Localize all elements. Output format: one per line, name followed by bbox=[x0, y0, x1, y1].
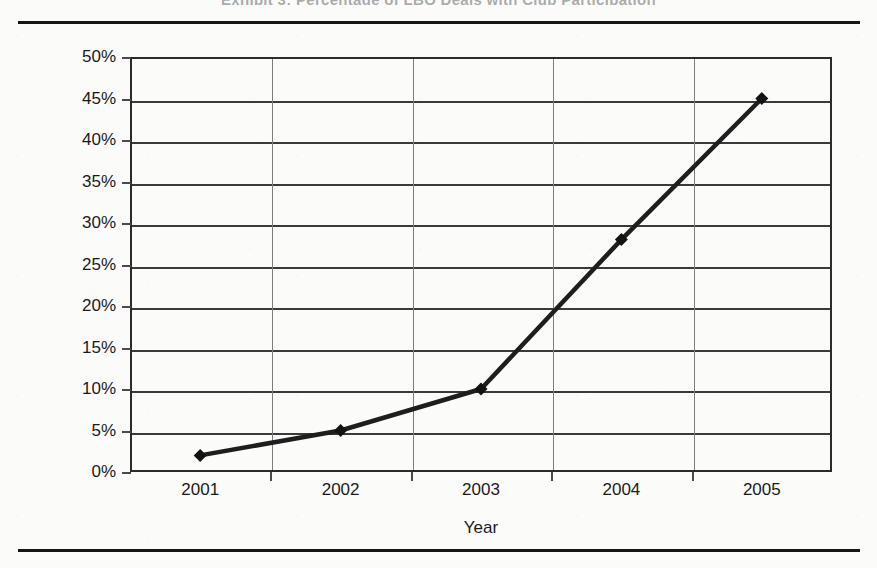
y-axis-tick-label: 10% bbox=[56, 379, 116, 399]
y-axis-tick-mark bbox=[122, 472, 131, 474]
y-axis-title: Percentage of LBO Deals bbox=[8, 0, 30, 101]
y-axis-tick-labels: 0%5%10%15%20%25%30%35%40%45%50% bbox=[48, 57, 116, 472]
data-point-marker bbox=[334, 424, 347, 437]
cut-off-title: Exhibit 3: Percentage of LBO Deals with … bbox=[0, 0, 877, 5]
y-axis-tick-mark bbox=[122, 431, 131, 433]
x-axis-tick-label: 2001 bbox=[130, 480, 270, 500]
x-axis-tick-labels: 20012002200320042005 bbox=[130, 480, 832, 506]
y-axis-tick-mark bbox=[122, 265, 131, 267]
y-axis-tick-label: 30% bbox=[56, 213, 116, 233]
y-axis-tick-mark bbox=[122, 57, 131, 59]
y-axis-tick-mark bbox=[122, 99, 131, 101]
y-axis-tick-label: 0% bbox=[56, 462, 116, 482]
chart-page: Exhibit 3: Percentage of LBO Deals with … bbox=[0, 0, 877, 568]
series-line bbox=[200, 99, 762, 456]
x-axis-tick-label: 2005 bbox=[692, 480, 832, 500]
data-series-layer bbox=[130, 57, 832, 472]
y-axis-tick-label: 20% bbox=[56, 296, 116, 316]
y-axis-tick-mark bbox=[122, 306, 131, 308]
y-axis-tick-label: 5% bbox=[56, 421, 116, 441]
x-axis-tick-mark bbox=[692, 472, 694, 481]
x-axis-tick-label: 2004 bbox=[551, 480, 691, 500]
x-axis-tick-label: 2002 bbox=[271, 480, 411, 500]
y-axis-tick-label: 45% bbox=[56, 89, 116, 109]
y-axis-tick-mark bbox=[122, 389, 131, 391]
y-axis-tick-mark bbox=[122, 223, 131, 225]
x-axis-tick-mark bbox=[551, 472, 553, 481]
data-point-marker bbox=[194, 449, 207, 462]
y-axis-tick-label: 50% bbox=[56, 47, 116, 67]
y-axis-tick-label: 15% bbox=[56, 338, 116, 358]
top-horizontal-rule bbox=[18, 21, 860, 24]
x-axis-tick-mark bbox=[411, 472, 413, 481]
y-axis-tick-label: 40% bbox=[56, 130, 116, 150]
x-axis-tick-mark bbox=[270, 472, 272, 481]
x-axis-title: Year bbox=[130, 518, 832, 538]
bottom-horizontal-rule bbox=[18, 549, 860, 552]
y-axis-tick-mark bbox=[122, 348, 131, 350]
y-axis-tick-label: 35% bbox=[56, 172, 116, 192]
x-axis-tick-label: 2003 bbox=[411, 480, 551, 500]
y-axis-tick-mark bbox=[122, 140, 131, 142]
y-axis-tick-label: 25% bbox=[56, 255, 116, 275]
y-axis-tick-mark bbox=[122, 182, 131, 184]
